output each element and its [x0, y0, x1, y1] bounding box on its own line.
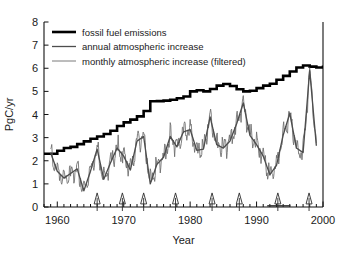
- figure-container: 012345678PgC/yr19601970198019902000Yearf…: [0, 0, 349, 259]
- x-tick-label-1980: 1980: [178, 214, 202, 226]
- y-tick-label-0: 0: [32, 201, 38, 213]
- y-tick-label-1: 1: [32, 178, 38, 190]
- y-tick-label-4: 4: [32, 109, 38, 121]
- x-axis-label: Year: [172, 234, 195, 246]
- eruption-arrow-5: [236, 193, 242, 211]
- y-tick-label-6: 6: [32, 62, 38, 74]
- legend-label-2: monthly atmospheric increase (filtered): [82, 56, 246, 67]
- y-tick-label-5: 5: [32, 85, 38, 97]
- y-tick-label-8: 8: [32, 16, 38, 28]
- eruption-arrow-2: [141, 193, 147, 211]
- x-tick-label-1960: 1960: [45, 214, 69, 226]
- series-fossil-fuel-emissions: [44, 65, 323, 153]
- x-tick-label-1970: 1970: [111, 214, 135, 226]
- x-tick-label-2000: 2000: [311, 214, 335, 226]
- y-tick-label-2: 2: [32, 155, 38, 167]
- x-tick-label-1990: 1990: [244, 214, 268, 226]
- eruption-arrow-3: [173, 193, 179, 211]
- eruption-arrow-1: [119, 193, 125, 211]
- y-tick-label-7: 7: [32, 39, 38, 51]
- chart-svg: 012345678PgC/yr19601970198019902000Yearf…: [0, 0, 349, 259]
- y-axis-label: PgC/yr: [3, 97, 15, 131]
- eruption-arrow-4: [209, 193, 215, 211]
- legend-label-1: annual atmospheric increase: [82, 41, 203, 52]
- eruption-arrow-7: [306, 193, 312, 211]
- eruption-arrow-0: [94, 193, 100, 211]
- y-tick-label-3: 3: [32, 132, 38, 144]
- legend-label-0: fossil fuel emissions: [82, 27, 167, 38]
- eruption-arrow-6: [275, 193, 281, 211]
